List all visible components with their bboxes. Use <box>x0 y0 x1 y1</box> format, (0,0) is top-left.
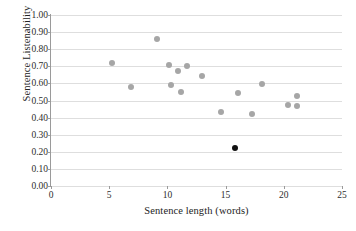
y-axis-tick-mark <box>47 118 50 119</box>
x-axis-tick-mark <box>51 186 52 189</box>
data-point <box>154 36 160 42</box>
plot-area <box>51 15 342 186</box>
x-axis-tick-label: 5 <box>94 190 124 201</box>
data-point <box>294 103 300 109</box>
y-axis-tick-mark <box>47 15 50 16</box>
data-point <box>294 93 300 99</box>
x-axis-tick-label: 20 <box>269 190 299 201</box>
x-axis-tick-label: 10 <box>152 190 182 201</box>
x-axis-tick-mark <box>284 186 285 189</box>
y-axis-tick-label: 0.50 <box>4 96 48 106</box>
y-axis-tick-label: 0.10 <box>4 164 48 174</box>
data-point <box>175 68 181 74</box>
y-axis-tick-mark <box>47 83 50 84</box>
data-point <box>285 102 291 108</box>
y-axis-tick-label: 0.90 <box>4 27 48 37</box>
gridline <box>51 186 342 187</box>
y-axis-tick-label: 0.30 <box>4 130 48 140</box>
y-axis-tick-mark <box>47 169 50 170</box>
y-axis-tick-label: 0.70 <box>4 61 48 71</box>
y-axis-tick-mark <box>47 152 50 153</box>
y-axis-tick-label: 0.60 <box>4 78 48 88</box>
scatter-chart: Sentence Listenability 0.000.100.200.300… <box>0 0 356 231</box>
y-axis-tick-mark <box>47 49 50 50</box>
data-point <box>184 63 190 69</box>
x-axis-tick-label: 15 <box>211 190 241 201</box>
y-axis-tick-mark <box>47 135 50 136</box>
x-axis-tick-mark <box>226 186 227 189</box>
data-point <box>178 89 184 95</box>
x-axis-tick-label: 25 <box>327 190 356 201</box>
data-point <box>199 73 205 79</box>
y-axis-tick-label: 0.80 <box>4 44 48 54</box>
data-point <box>232 145 238 151</box>
y-axis-tick-label: 0.20 <box>4 147 48 157</box>
y-axis-tick-label: 1.00 <box>4 10 48 20</box>
x-axis-tick-mark <box>109 186 110 189</box>
data-point <box>235 90 241 96</box>
data-point <box>166 62 172 68</box>
x-axis-title: Sentence length (words) <box>51 205 342 216</box>
data-point <box>168 82 174 88</box>
x-axis-tick-mark <box>342 186 343 189</box>
y-axis-tick-mark <box>47 101 50 102</box>
x-axis-tick-label: 0 <box>36 190 66 201</box>
y-axis-tick-label: 0.40 <box>4 113 48 123</box>
y-axis-tick-mark <box>47 32 50 33</box>
data-point <box>128 84 134 90</box>
data-point <box>218 109 224 115</box>
data-point <box>109 60 115 66</box>
y-axis-tick-mark <box>47 186 50 187</box>
data-point <box>249 111 255 117</box>
data-point <box>259 81 265 87</box>
x-axis-tick-mark <box>167 186 168 189</box>
data-points-layer <box>51 15 342 186</box>
y-axis-tick-mark <box>47 66 50 67</box>
